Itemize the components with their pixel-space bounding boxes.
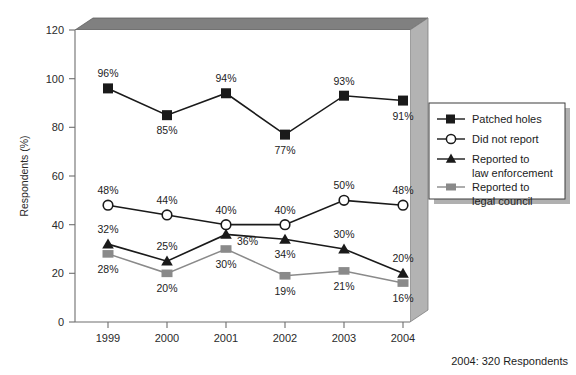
y-axis-ticks: 0 20 40 60 80 100 120 — [46, 24, 75, 328]
data-label: 20% — [392, 252, 413, 264]
marker-filled-square-gray — [280, 272, 291, 280]
data-label: 21% — [333, 280, 354, 292]
data-label: 48% — [392, 184, 413, 196]
chart-legend[interactable]: Patched holes Did not report Reported to… — [429, 103, 570, 207]
data-label: 40% — [215, 204, 236, 216]
legend-item-did-not-report[interactable]: Did not report — [437, 133, 539, 145]
legend-label: Reported to — [472, 181, 529, 193]
x-tick-label-2001: 2001 — [214, 332, 238, 344]
x-tick-label-2003: 2003 — [332, 332, 356, 344]
marker-filled-square — [280, 130, 290, 140]
y-tick-label-0: 0 — [58, 316, 64, 328]
marker-filled-square — [162, 110, 172, 120]
marker-filled-square — [221, 88, 231, 98]
data-label: 30% — [215, 258, 236, 270]
line-chart: 0 20 40 60 80 100 120 Respondents (%) 19… — [0, 0, 576, 375]
data-label: 77% — [274, 144, 295, 156]
marker-filled-square — [103, 83, 113, 93]
marker-filled-square — [339, 91, 349, 101]
data-label: 44% — [156, 194, 177, 206]
marker-filled-square-gray — [398, 279, 409, 287]
data-label: 28% — [97, 263, 118, 275]
marker-open-circle — [339, 196, 349, 206]
marker-filled-square-gray — [162, 270, 173, 278]
legend-label: Did not report — [472, 133, 539, 145]
data-label: 93% — [333, 75, 354, 87]
x-tick-label-1999: 1999 — [96, 332, 120, 344]
data-label: 94% — [215, 72, 236, 84]
marker-open-circle — [398, 200, 408, 210]
x-tick-label-2004: 2004 — [391, 332, 415, 344]
marker-filled-square-gray — [339, 267, 350, 275]
filled-square-icon — [446, 115, 455, 124]
legend-label-line2: legal council — [472, 195, 533, 207]
data-label: 25% — [156, 240, 177, 252]
marker-open-circle — [280, 220, 290, 230]
x-axis-ticks: 1999 2000 2001 2002 2003 2004 — [96, 322, 415, 344]
chart-container: 0 20 40 60 80 100 120 Respondents (%) 19… — [0, 0, 576, 375]
data-label: 50% — [333, 179, 354, 191]
data-label: 19% — [274, 285, 295, 297]
data-label: 30% — [333, 228, 354, 240]
y-tick-label-60: 60 — [52, 170, 64, 182]
frame-top-slab — [75, 18, 428, 30]
data-label: 48% — [97, 184, 118, 196]
legend-label-line2: law enforcement — [472, 167, 553, 179]
legend-label: Reported to — [472, 153, 529, 165]
x-tick-label-2000: 2000 — [155, 332, 179, 344]
marker-filled-square-gray — [221, 245, 232, 253]
y-tick-label-80: 80 — [52, 121, 64, 133]
data-label: 40% — [274, 204, 295, 216]
marker-filled-square — [398, 96, 408, 106]
y-tick-label-20: 20 — [52, 267, 64, 279]
data-label: 91% — [392, 110, 413, 122]
marker-open-circle — [221, 220, 231, 230]
data-label: 32% — [97, 223, 118, 235]
data-label: 85% — [156, 124, 177, 136]
marker-filled-square-gray — [103, 250, 114, 258]
legend-label: Patched holes — [472, 113, 542, 125]
open-circle-icon — [446, 134, 455, 143]
data-label: 36% — [237, 235, 258, 247]
marker-open-circle — [162, 210, 172, 220]
frame-right-panel — [410, 18, 428, 322]
y-axis-title: Respondents (%) — [18, 135, 30, 216]
x-tick-label-2002: 2002 — [273, 332, 297, 344]
plot-area-background — [75, 30, 410, 322]
marker-open-circle — [103, 200, 113, 210]
y-tick-label-120: 120 — [46, 24, 64, 36]
data-label: 16% — [392, 292, 413, 304]
filled-square-gray-icon — [446, 184, 456, 191]
data-label: 20% — [156, 282, 177, 294]
respondents-note: 2004: 320 Respondents — [451, 355, 568, 367]
y-tick-label-100: 100 — [46, 73, 64, 85]
y-tick-label-40: 40 — [52, 219, 64, 231]
data-label: 96% — [97, 67, 118, 79]
data-label: 34% — [274, 248, 295, 260]
legend-item-patched-holes[interactable]: Patched holes — [437, 113, 542, 125]
